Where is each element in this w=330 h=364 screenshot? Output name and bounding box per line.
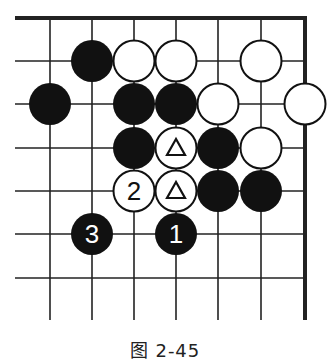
stone-disc	[197, 170, 239, 212]
black-stone	[197, 127, 239, 169]
stone-disc	[241, 41, 282, 82]
black-stone	[71, 40, 113, 82]
diagram-caption: 图 2-45	[0, 336, 330, 362]
stone-disc	[155, 83, 197, 125]
stone-disc	[114, 41, 155, 82]
black-stone: 3	[71, 213, 113, 255]
go-board: 231	[0, 0, 330, 330]
white-stone	[114, 41, 155, 82]
white-stone	[285, 84, 326, 125]
stone-disc	[156, 171, 197, 212]
stone-disc	[113, 83, 155, 125]
black-stone	[240, 170, 282, 212]
move-number: 2	[127, 176, 141, 206]
black-stone	[197, 170, 239, 212]
white-stone: 2	[114, 171, 155, 212]
stone-disc	[29, 83, 71, 125]
white-stone	[156, 171, 197, 212]
white-stone	[198, 84, 239, 125]
black-stone	[155, 83, 197, 125]
stone-disc	[71, 40, 113, 82]
white-stone	[156, 41, 197, 82]
move-number: 1	[169, 219, 183, 249]
black-stone: 1	[155, 213, 197, 255]
move-number: 3	[85, 219, 99, 249]
stone-disc	[113, 127, 155, 169]
stone-disc	[198, 84, 239, 125]
stone-disc	[285, 84, 326, 125]
white-stone	[241, 41, 282, 82]
stone-disc	[240, 170, 282, 212]
black-stone	[113, 127, 155, 169]
stone-disc	[241, 128, 282, 169]
black-stone	[113, 83, 155, 125]
stone-disc	[156, 41, 197, 82]
stone-disc	[197, 127, 239, 169]
white-stone	[156, 128, 197, 169]
white-stone	[241, 128, 282, 169]
stone-disc	[156, 128, 197, 169]
black-stone	[29, 83, 71, 125]
